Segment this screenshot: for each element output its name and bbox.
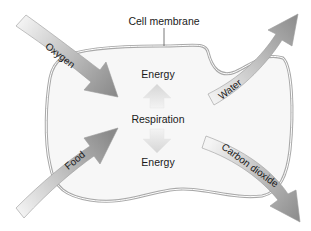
respiration-diagram: Cell membrane Oxygen Food Water Carbon d… [0,0,311,231]
membrane-label: Cell membrane [128,15,199,27]
respiration-label: Respiration [131,113,184,125]
diagram-canvas: Cell membrane Oxygen Food Water Carbon d… [0,0,311,231]
energy-top-label: Energy [141,68,175,80]
energy-bottom-label: Energy [141,156,175,168]
